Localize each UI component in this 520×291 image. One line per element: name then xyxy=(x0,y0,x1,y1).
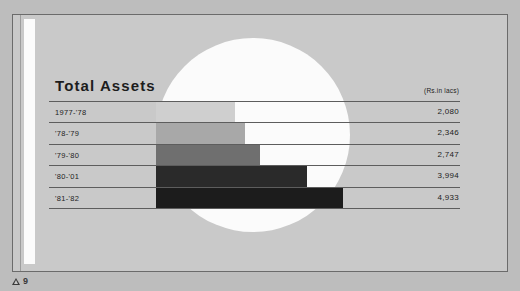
folio: 9 xyxy=(12,276,28,286)
chart-panel: Total Assets (Rs.in lacs) 1977-'78'78-'7… xyxy=(12,14,508,272)
gridline xyxy=(49,208,460,209)
total-assets-bar-chart: Total Assets (Rs.in lacs) 1977-'78'78-'7… xyxy=(13,15,507,271)
bar xyxy=(156,123,245,143)
category-label: '78-'79 xyxy=(55,129,79,138)
page-background: Total Assets (Rs.in lacs) 1977-'78'78-'7… xyxy=(0,0,520,291)
bar xyxy=(156,145,260,165)
gridline xyxy=(49,122,460,123)
value-label: 2,747 xyxy=(437,150,459,159)
bar xyxy=(156,166,307,186)
category-label: 1977-'78 xyxy=(55,108,86,117)
triangle-icon xyxy=(12,278,20,285)
bar xyxy=(156,102,235,122)
gridline xyxy=(49,101,460,102)
category-label: '80-'01 xyxy=(55,172,79,181)
chart-units-note: (Rs.in lacs) xyxy=(424,87,459,94)
category-label: '81-'82 xyxy=(55,194,79,203)
value-label: 4,933 xyxy=(437,193,459,202)
chart-title: Total Assets xyxy=(55,77,156,94)
value-label: 3,994 xyxy=(437,171,459,180)
value-label: 2,080 xyxy=(437,107,459,116)
page-number: 9 xyxy=(23,276,28,286)
bar xyxy=(156,188,343,208)
category-label: '79-'80 xyxy=(55,151,79,160)
value-label: 2,346 xyxy=(437,128,459,137)
